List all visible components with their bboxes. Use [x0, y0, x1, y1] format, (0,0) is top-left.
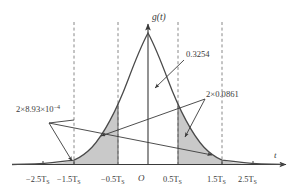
leader-outer-b [49, 123, 72, 161]
origin-label: O [138, 173, 145, 183]
shade-left-inner [74, 104, 118, 165]
annotation-inner-tail-area: 2×0.0861 [206, 89, 239, 99]
annotation-peak-amplitude: 0.3254 [186, 49, 210, 59]
shade-right-inner [178, 104, 222, 165]
leader-outer-c [49, 120, 74, 123]
xtick-label-plus-2_5T: 2.5TS [238, 175, 257, 185]
xtick-label-minus-1_5T: −1.5TS [57, 175, 81, 185]
xtick-label-minus-0_5T: −0.5TS [101, 175, 125, 185]
x-axis-label: t [274, 150, 277, 160]
annotation-outer-tail-area: 2×8.93×10−4 [16, 104, 60, 114]
xtick-label-plus-1_5T: 1.5TS [207, 175, 226, 185]
xtick-label-plus-0_5T: 0.5TS [163, 175, 182, 185]
y-axis-label: g(t) [152, 12, 166, 23]
gaussian-pulse-figure: g(t) t O −2.5TS −1.5TS −0.5TS 0.5TS 1.5T… [0, 0, 297, 194]
xtick-label-minus-2_5T: −2.5TS [26, 175, 50, 185]
